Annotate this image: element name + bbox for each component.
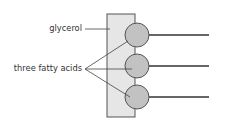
fatty-acid-head-2 [125,54,149,78]
glycerol-label: glycerol [49,23,82,33]
fatty-acid-head-3 [125,85,149,109]
triglyceride-diagram: glycerol three fatty acids [0,0,226,136]
fatty-acid-head-1 [125,23,149,47]
fatty-acids-label: three fatty acids [14,63,82,73]
